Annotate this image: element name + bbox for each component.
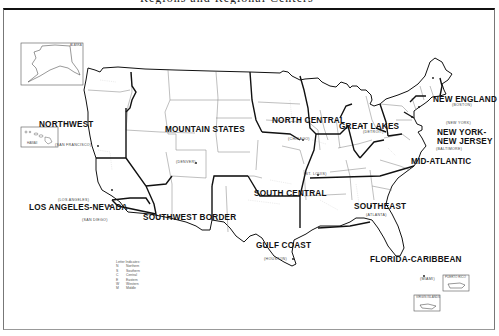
map-legend: Letter Indicates: NNorthern SSouthern CC… [116,260,140,291]
city-st-louis: (ST. LOUIS) [304,173,327,177]
city-denver: (DENVER) [176,161,196,165]
city-los-angeles: (LOS ANGELES) [58,199,89,203]
region-new-york-new-jersey-line2: NEW JERSEY [437,138,493,146]
region-northwest: NORTHWEST [39,121,94,129]
region-mountain-states: MOUNTAIN STATES [165,126,245,134]
city-chicago: (CHICAGO) [288,138,310,142]
city-detroit: (DETROIT) [363,131,384,135]
us-regions-map [0,0,499,336]
region-north-central: NORTH CENTRAL [272,117,345,125]
legend-item: MMiddle [116,286,140,290]
city-atlanta: (ATLANTA) [366,214,387,218]
region-southeast: SOUTHEAST [354,203,406,211]
city-san-francisco: (SAN FRANCISCO) [55,144,91,148]
region-florida-caribbean: FLORIDA-CARIBBEAN [370,256,462,264]
region-new-york-new-jersey-line1: NEW YORK- [437,129,486,137]
city-new-york: (NEW YORK) [446,122,471,126]
region-los-angeles-nevada: LOS ANGELES-NEVADA [29,204,128,212]
region-southwest-border: SOUTHWEST BORDER [143,214,236,222]
virgin-islands-label: VIRGIN ISLANDS [416,296,440,299]
region-mid-atlantic: MID-ATLANTIC [411,158,471,166]
city-boston: (BOSTON) [452,104,472,108]
puerto-rico-label: PUERTO RICO [445,276,466,279]
city-baltimore: (BALTIMORE) [436,148,462,152]
city-miami: (MIAMI) [420,278,435,282]
region-gulf-coast: GULF COAST [256,242,311,250]
continental-us-outline [84,58,452,266]
city-san-diego: (SAN DIEGO) [82,219,108,223]
alaska-inset [21,43,83,85]
city-houston: (HOUSTON) [264,258,287,262]
region-south-central: SOUTH CENTRAL [254,190,327,198]
alaska-label: ALASKA [70,44,82,47]
hawaii-label: HAWAII [27,142,37,145]
